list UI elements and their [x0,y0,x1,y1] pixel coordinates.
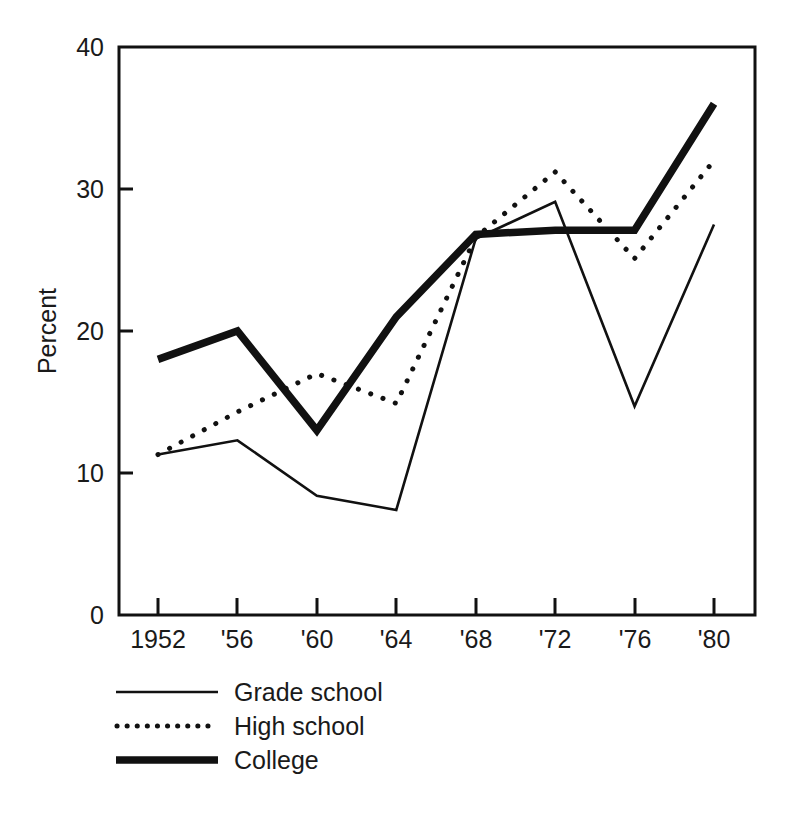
y-tick-label-40: 40 [76,33,104,61]
y-tick-label-10: 10 [76,459,104,487]
series-line-grade-school [158,202,714,510]
x-tick-label-1980: '80 [698,625,731,653]
x-tick-label-1964: '64 [380,625,413,653]
x-axis-tick-labels: 1952 '56 '60 '64 '68 '72 '76 '80 [130,625,730,653]
series-line-high-school [158,161,714,455]
legend-item-grade-school[interactable]: Grade school [116,678,383,706]
y-axis-title: Percent [33,288,61,374]
y-axis-ticks [119,189,133,473]
series-line-college [158,104,714,431]
figure-container: 0 10 20 30 40 Percent 1952 '56 '60 '64 '… [0,0,792,819]
y-tick-label-0: 0 [90,601,104,629]
line-chart: 0 10 20 30 40 Percent 1952 '56 '60 '64 '… [0,0,792,819]
x-tick-label-1968: '68 [460,625,493,653]
x-tick-label-1956: '56 [221,625,254,653]
legend: Grade school High school College [116,678,383,774]
data-series-group [158,104,714,510]
x-tick-label-1976: '76 [619,625,652,653]
x-tick-label-1952: 1952 [130,625,186,653]
legend-label-college: College [234,746,319,774]
x-axis-ticks [158,598,714,615]
x-tick-label-1960: '60 [301,625,334,653]
legend-label-grade-school: Grade school [234,678,383,706]
legend-item-college[interactable]: College [116,746,319,774]
plot-frame [119,47,755,615]
y-tick-label-30: 30 [76,175,104,203]
y-axis-tick-labels: 0 10 20 30 40 [76,33,104,629]
legend-item-high-school[interactable]: High school [117,712,365,740]
legend-label-high-school: High school [234,712,365,740]
x-tick-label-1972: '72 [539,625,572,653]
y-tick-label-20: 20 [76,317,104,345]
